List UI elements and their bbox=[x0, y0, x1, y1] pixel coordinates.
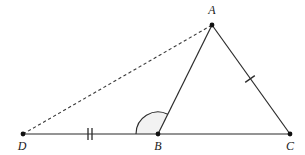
vertex-dot-b bbox=[156, 132, 161, 137]
vertex-dot-c bbox=[288, 132, 293, 137]
vertex-label-a: A bbox=[207, 3, 216, 17]
vertex-label-d: D bbox=[17, 139, 27, 153]
tick-mark-ac-single bbox=[245, 76, 255, 83]
vertex-label-b: B bbox=[154, 139, 162, 153]
geometry-canvas: A B C D bbox=[0, 0, 305, 155]
vertex-label-c: C bbox=[286, 139, 295, 153]
geometry-figure: A B C D bbox=[0, 0, 305, 155]
segment-ac bbox=[212, 25, 290, 134]
vertex-dot-d bbox=[21, 132, 26, 137]
vertex-dot-a bbox=[210, 23, 215, 28]
segment-da-dashed bbox=[23, 25, 212, 134]
segment-ab bbox=[158, 25, 212, 134]
